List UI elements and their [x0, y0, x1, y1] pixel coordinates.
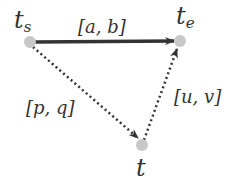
node-ts: [24, 36, 36, 48]
edge-ts-t: [33, 47, 138, 138]
label-ts: ts: [14, 6, 32, 36]
label-te: te: [176, 2, 195, 32]
node-t: [136, 139, 148, 151]
edge-ts-te: [34, 41, 174, 42]
label-edge-ab: [a, b]: [78, 16, 127, 37]
label-edge-pq: [p, q]: [26, 97, 76, 118]
label-edge-uv: [u, v]: [174, 86, 222, 107]
node-te: [174, 35, 186, 47]
temporal-constraint-diagram: ts te t [a, b] [p, q] [u, v]: [0, 0, 233, 183]
edge-t-te: [144, 49, 177, 140]
label-t: t: [136, 154, 146, 182]
